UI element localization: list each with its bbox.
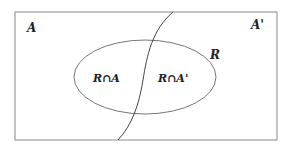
label-r-intersect-a-prime: R∩A'	[157, 72, 188, 85]
universe-rectangle	[15, 12, 277, 140]
label-a: A	[26, 21, 36, 35]
venn-diagram: A A' R R∩A R∩A'	[0, 0, 288, 150]
label-a-prime: A'	[250, 18, 264, 32]
label-r: R	[209, 48, 220, 62]
label-r-intersect-a: R∩A	[92, 72, 120, 85]
